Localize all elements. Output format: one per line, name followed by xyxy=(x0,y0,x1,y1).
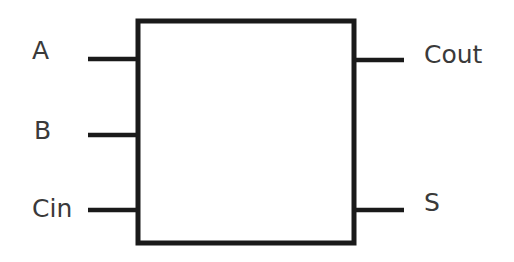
input-label-cin: Cin xyxy=(32,196,72,221)
output-label-cout: Cout xyxy=(424,42,482,67)
output-label-s: S xyxy=(424,190,440,215)
input-label-b: B xyxy=(34,118,51,143)
input-label-a: A xyxy=(32,38,49,63)
block-box xyxy=(138,21,354,243)
